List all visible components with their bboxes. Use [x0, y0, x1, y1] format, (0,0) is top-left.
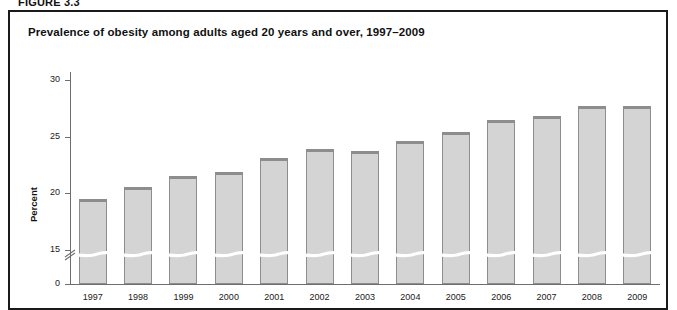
axis-break-icon: [63, 246, 79, 262]
bar-2005: [442, 132, 470, 284]
plot-area: 1997199819992000200120022003200420052006…: [70, 72, 660, 284]
y-tick-label-30: 30: [34, 74, 60, 84]
chart-title: Prevalence of obesity among adults aged …: [28, 26, 425, 38]
y-tick-25: [65, 137, 70, 138]
y-tick-label-15: 15: [34, 244, 60, 254]
bar-2008: [578, 106, 606, 284]
x-axis-label-2007: 2007: [524, 292, 569, 302]
x-axis-label-2006: 2006: [479, 292, 524, 302]
x-axis-label-2003: 2003: [342, 292, 387, 302]
x-axis-label-1999: 1999: [161, 292, 206, 302]
y-tick-label-20: 20: [34, 187, 60, 197]
x-axis-label-1998: 1998: [115, 292, 160, 302]
bar-2006: [487, 120, 515, 284]
x-axis-label-2001: 2001: [252, 292, 297, 302]
bar-2000: [215, 172, 243, 284]
x-axis-label-2008: 2008: [569, 292, 614, 302]
bar-2003: [351, 151, 379, 284]
bar-1999: [169, 176, 197, 284]
figure-number-label: FIGURE 3.3: [18, 0, 80, 8]
y-tick-0: [65, 284, 70, 285]
y-tick-label-0: 0: [34, 278, 60, 288]
bar-2007: [533, 116, 561, 284]
bar-2001: [260, 158, 288, 284]
x-axis-label-2005: 2005: [433, 292, 478, 302]
bar-2009: [623, 106, 651, 284]
y-tick-label-25: 25: [34, 131, 60, 141]
bar-2004: [396, 141, 424, 284]
x-axis-label-2009: 2009: [615, 292, 660, 302]
y-axis-labels: Percent 015202530: [32, 72, 60, 284]
x-axis-line: [70, 284, 660, 285]
x-axis-label-1997: 1997: [70, 292, 115, 302]
bar-series: [70, 72, 660, 284]
y-tick-30: [65, 80, 70, 81]
figure-frame: Prevalence of obesity among adults aged …: [8, 10, 668, 310]
x-axis-label-2004: 2004: [388, 292, 433, 302]
bar-1998: [124, 187, 152, 285]
y-tick-20: [65, 193, 70, 194]
bar-1997: [79, 199, 107, 284]
bar-2002: [306, 149, 334, 284]
x-axis-label-2000: 2000: [206, 292, 251, 302]
x-axis-label-2002: 2002: [297, 292, 342, 302]
